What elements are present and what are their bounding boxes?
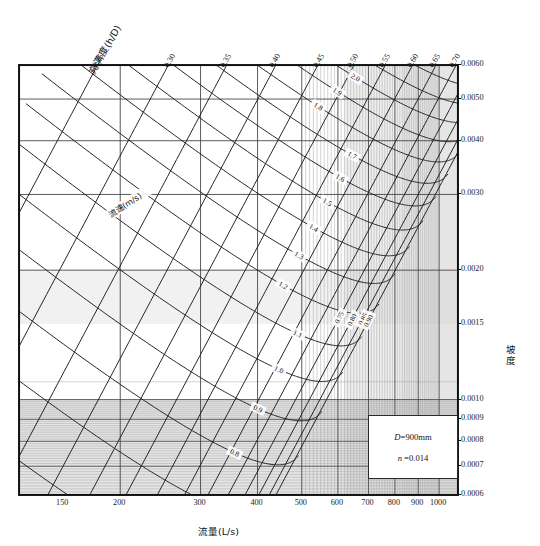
- right-tick-mark: [457, 64, 461, 65]
- right-tick-label: 0.0050: [461, 93, 484, 102]
- fill-ratio-curve: [19, 65, 109, 256]
- right-tick-mark: [457, 98, 461, 99]
- bottom-tick-label: 1000: [427, 498, 449, 507]
- nomograph-page: 0.80.91.01.11.21.31.41.51.61.71.81.92.00…: [0, 0, 540, 546]
- right-tick-mark: [457, 269, 461, 270]
- right-tick-label: 0.0006: [461, 489, 484, 498]
- bottom-tick-label: 500: [290, 498, 312, 507]
- svg-text:流速(m/s): 流速(m/s): [107, 191, 144, 220]
- right-tick-mark: [457, 193, 461, 194]
- velocity-curve-label: 1.8: [309, 98, 327, 114]
- bottom-tick-label: 150: [51, 498, 73, 507]
- bottom-tick-label: 900: [406, 498, 428, 507]
- legend-box: D=900mm n =0.014: [368, 415, 458, 479]
- right-tick-mark: [457, 399, 461, 400]
- right-tick-label: 0.0010: [461, 394, 484, 403]
- right-tick-label: 0.0015: [461, 318, 484, 327]
- right-tick-label: 0.0007: [461, 460, 484, 469]
- fill-ratio-curve: [19, 65, 179, 393]
- legend-diameter-value: =900mm: [401, 432, 432, 442]
- right-tick-label: 0.0009: [461, 413, 484, 422]
- right-tick-label: 0.0020: [461, 264, 484, 273]
- bottom-tick-label: 400: [246, 498, 268, 507]
- bottom-tick-label: 800: [383, 498, 405, 507]
- right-tick-mark: [457, 140, 461, 141]
- right-tick-mark: [457, 494, 461, 495]
- right-tick-label: 0.0060: [461, 59, 484, 68]
- right-tick-label: 0.0030: [461, 188, 484, 197]
- legend-roughness-value: =0.014: [402, 453, 428, 463]
- bottom-axis-title: 流量(L/s): [198, 524, 239, 538]
- bottom-tick-label: 200: [108, 498, 130, 507]
- legend-diameter: D=900mm: [394, 432, 431, 442]
- velocity-curve-label: 1.5: [318, 194, 336, 209]
- bottom-tick-label: 700: [356, 498, 378, 507]
- right-tick-mark: [457, 323, 461, 324]
- right-tick-label: 0.0040: [461, 135, 484, 144]
- right-axis-title: 坡度: [503, 345, 517, 367]
- legend-roughness: n =0.014: [398, 453, 429, 463]
- velocity-curve-label: 1.0: [270, 362, 288, 377]
- velocity-curve-label: 1.4: [305, 220, 323, 235]
- bottom-tick-label: 600: [326, 498, 348, 507]
- right-tick-label: 0.0008: [461, 435, 484, 444]
- bottom-tick-label: 300: [189, 498, 211, 507]
- velocity-curve-label: 1.1: [289, 327, 307, 342]
- velocity-curve-label: 1.3: [290, 248, 308, 263]
